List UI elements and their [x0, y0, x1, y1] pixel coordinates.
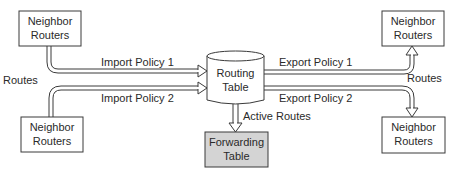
node-label: Table — [222, 81, 248, 93]
neighbor-routers-top-left: Neighbor Routers — [19, 11, 81, 46]
neighbor-routers-bottom-right: Neighbor Routers — [382, 117, 445, 153]
node-label: Forwarding — [209, 136, 264, 148]
export-policy-2-label: Export Policy 2 — [279, 92, 352, 104]
node-label: Routers — [31, 29, 70, 41]
node-label: Routers — [394, 29, 433, 41]
routes-left-label: Routes — [3, 74, 38, 86]
routing-policy-diagram: Neighbor Routers Neighbor Routers Neighb… — [0, 0, 464, 179]
neighbor-routers-top-right: Neighbor Routers — [382, 11, 444, 46]
node-label: Routers — [394, 135, 433, 147]
node-label: Neighbor — [30, 121, 75, 133]
node-label: Neighbor — [391, 15, 436, 27]
forwarding-table-box: Forwarding Table — [205, 132, 268, 167]
active-routes-label: Active Routes — [243, 110, 311, 122]
import-policy-2-label: Import Policy 2 — [101, 92, 174, 104]
node-label: Routing — [217, 67, 255, 79]
routes-right-label: Routes — [407, 72, 442, 84]
node-label: Neighbor — [391, 121, 436, 133]
export-policy-1-label: Export Policy 1 — [279, 56, 352, 68]
import-policy-1-label: Import Policy 1 — [101, 56, 174, 68]
routing-table-cylinder: Routing Table — [207, 51, 264, 104]
node-label: Routers — [33, 135, 72, 147]
neighbor-routers-bottom-left: Neighbor Routers — [21, 117, 83, 152]
node-label: Table — [223, 150, 249, 162]
active-routes-arrow — [229, 104, 242, 132]
node-label: Neighbor — [28, 15, 73, 27]
